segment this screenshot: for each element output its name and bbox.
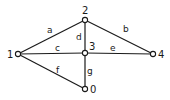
node-label-3: 3 <box>89 41 95 52</box>
node-label-4: 4 <box>158 49 164 60</box>
edge-label-b: b <box>123 24 129 34</box>
graph-svg: abdcefg 12340 <box>0 0 170 100</box>
edge-label-a: a <box>47 25 53 35</box>
edge-label-g: g <box>87 66 93 76</box>
edge-label-c: c <box>55 43 60 53</box>
node-label-1: 1 <box>7 49 13 60</box>
edge-label-e: e <box>110 43 116 53</box>
node-1 <box>15 51 20 56</box>
edge-e <box>85 53 153 54</box>
edge-labels-group: abdcefg <box>47 24 129 76</box>
edge-f <box>18 54 85 89</box>
node-2 <box>82 17 87 22</box>
edge-c <box>18 53 85 54</box>
node-label-2: 2 <box>82 5 88 16</box>
edge-label-f: f <box>56 65 60 75</box>
edge-label-d: d <box>76 32 82 42</box>
node-3 <box>82 50 87 55</box>
graph-diagram: abdcefg 12340 <box>0 0 170 100</box>
node-0 <box>82 86 87 91</box>
node-label-0: 0 <box>90 84 96 95</box>
node-4 <box>150 51 155 56</box>
